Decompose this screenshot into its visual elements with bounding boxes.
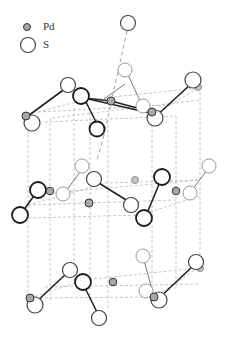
s-atom xyxy=(73,88,89,104)
pd-atom xyxy=(22,112,30,120)
pd-atom xyxy=(26,294,34,302)
bonds xyxy=(20,31,207,314)
legend-label-s: S xyxy=(43,39,49,50)
s-atom xyxy=(75,159,89,173)
pd-atom xyxy=(109,278,117,286)
s-atom xyxy=(90,122,105,137)
s-atom xyxy=(121,16,136,31)
s-atom xyxy=(202,159,216,173)
s-atom xyxy=(136,249,150,263)
legend-label-pd: Pd xyxy=(43,21,55,32)
s-atom xyxy=(56,187,70,201)
s-atom xyxy=(118,63,132,77)
s-atom xyxy=(12,207,28,223)
s-atom xyxy=(87,172,102,187)
s-atom xyxy=(124,198,139,213)
legend-s-icon xyxy=(21,38,36,53)
crystal-structure-figure: Pd S xyxy=(0,0,227,338)
s-atom xyxy=(136,210,152,226)
unit-cell-edges xyxy=(28,88,200,310)
legend-symbols xyxy=(21,24,36,53)
s-atom xyxy=(63,263,78,278)
s-atom xyxy=(154,169,170,185)
s-atom xyxy=(189,255,204,270)
s-atom xyxy=(75,274,91,290)
pd-atom xyxy=(107,97,115,105)
s-atom xyxy=(61,78,76,93)
legend-pd-icon xyxy=(24,24,31,31)
pd-atom xyxy=(172,187,180,195)
pd-atom xyxy=(46,187,54,195)
s-atom xyxy=(30,182,46,198)
s-atom xyxy=(92,311,107,326)
pd-atom xyxy=(132,177,139,184)
atoms xyxy=(12,16,216,326)
crystal-structure-drawing xyxy=(0,0,227,338)
pd-atom xyxy=(148,108,156,116)
pd-atom xyxy=(85,199,93,207)
pd-atom xyxy=(150,293,158,301)
s-atom xyxy=(183,186,197,200)
s-atom xyxy=(185,72,201,88)
